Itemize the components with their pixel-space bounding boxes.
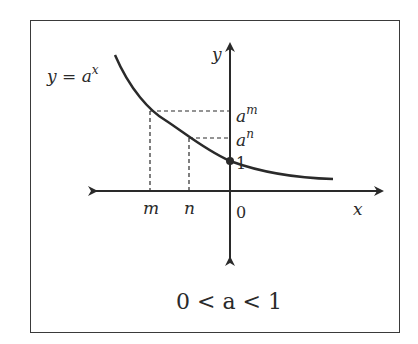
tick-label-am: am xyxy=(236,103,258,126)
origin-label: 0 xyxy=(236,203,246,222)
condition-caption: 0 < a < 1 xyxy=(176,289,282,314)
exponential-curve xyxy=(115,55,333,179)
y-axis-label: y xyxy=(211,44,222,64)
tick-label-an: an xyxy=(236,127,254,150)
tick-label-m: m xyxy=(143,198,159,218)
tick-label-1: 1 xyxy=(236,154,246,173)
point-0-1 xyxy=(226,157,234,165)
dashed-guides xyxy=(150,111,230,191)
tick-label-n: n xyxy=(184,198,195,218)
exponential-graph: y = ax y x 0 am an 1 m n 0 < a < 1 xyxy=(0,0,418,344)
function-label: y = ax xyxy=(46,63,99,86)
x-axis-label: x xyxy=(353,199,363,219)
